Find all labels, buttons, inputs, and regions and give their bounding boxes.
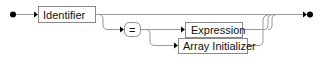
arrow-right-icon — [120, 27, 124, 33]
optional-branch-line — [96, 15, 120, 30]
end-terminator-icon — [307, 12, 313, 18]
array-initializer-node[interactable]: Array Initializer — [179, 39, 257, 54]
railroad-diagram: Identifier = Expression Array Initialize… — [0, 0, 325, 67]
arrow-right-icon — [181, 27, 185, 33]
expression-node[interactable]: Expression — [186, 23, 246, 38]
expression-label: Expression — [191, 24, 245, 36]
expression-exit-line — [243, 15, 274, 30]
arrow-right-icon — [34, 12, 38, 18]
choice-lower-line — [146, 30, 174, 46]
start-terminator-icon — [10, 12, 16, 18]
identifier-node[interactable]: Identifier — [39, 7, 96, 23]
identifier-label: Identifier — [43, 9, 86, 21]
array-initializer-label: Array Initializer — [183, 40, 256, 52]
end-arrow-icon — [303, 12, 307, 18]
equals-terminal-node[interactable]: = — [125, 23, 141, 37]
arrow-right-icon — [174, 43, 178, 49]
equals-label: = — [129, 24, 135, 36]
optional-merge-line — [268, 15, 278, 30]
